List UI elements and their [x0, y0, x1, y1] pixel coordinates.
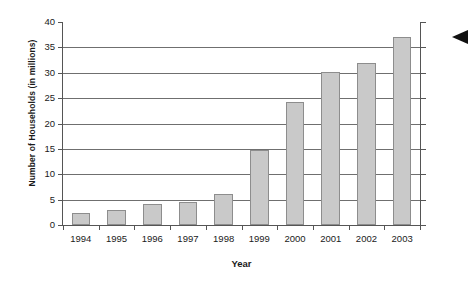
- y-tick-mark-right: [420, 47, 426, 48]
- y-tick-mark-right: [420, 149, 426, 150]
- y-tick-mark-right: [420, 200, 426, 201]
- bar: [214, 194, 233, 225]
- y-axis-tick-label: 35: [44, 43, 55, 53]
- y-axis-tick-label: 5: [50, 195, 55, 205]
- x-axis-tick-label: 1999: [249, 233, 270, 244]
- x-axis-tick-label: 2000: [284, 233, 305, 244]
- bar: [72, 213, 91, 225]
- y-axis-tick-label: 25: [44, 93, 55, 103]
- x-tick-mark: [242, 225, 243, 230]
- x-tick-mark: [63, 225, 64, 230]
- x-tick-mark: [277, 225, 278, 230]
- bar-group: 2003: [384, 22, 420, 225]
- bar-group: 1995: [99, 22, 135, 225]
- bar-group: 2001: [313, 22, 349, 225]
- x-tick-mark: [313, 225, 314, 230]
- x-axis-tick-label: 1995: [106, 233, 127, 244]
- bar-group: 1999: [242, 22, 278, 225]
- bar: [393, 37, 412, 225]
- x-axis-tick-label: 1996: [142, 233, 163, 244]
- x-tick-mark: [99, 225, 100, 230]
- bar: [107, 210, 126, 225]
- bar: [357, 63, 376, 225]
- x-axis-title: Year: [63, 258, 420, 269]
- bar-group: 1996: [134, 22, 170, 225]
- y-axis-tick-label: 20: [44, 119, 55, 129]
- y-tick-mark-right: [420, 124, 426, 125]
- y-axis-tick-label: 0: [50, 220, 55, 230]
- x-axis-tick-label: 2001: [320, 233, 341, 244]
- bar-group: 1994: [63, 22, 99, 225]
- x-tick-mark: [420, 225, 421, 230]
- x-axis-tick-label: 1998: [213, 233, 234, 244]
- bar: [250, 150, 269, 225]
- x-tick-mark: [206, 225, 207, 230]
- y-axis-title: Number of Households (in millions): [27, 13, 37, 213]
- bar: [321, 72, 340, 225]
- y-tick-mark-right: [420, 22, 426, 23]
- x-axis-tick-label: 1994: [70, 233, 91, 244]
- bar: [143, 204, 162, 225]
- y-axis-tick-label: 40: [44, 17, 55, 27]
- bar: [179, 202, 198, 225]
- bar-chart: Number of Households (in millions) 05101…: [0, 0, 475, 288]
- x-tick-mark: [170, 225, 171, 230]
- bar: [286, 102, 305, 225]
- x-tick-mark: [384, 225, 385, 230]
- x-tick-mark: [134, 225, 135, 230]
- plot-inner: 0510152025303540 19941995199619971998199…: [63, 22, 420, 225]
- bar-group: 2002: [349, 22, 385, 225]
- x-tick-mark: [349, 225, 350, 230]
- y-tick-mark-right: [420, 174, 426, 175]
- bar-group: 2000: [277, 22, 313, 225]
- y-tick-mark-right: [420, 73, 426, 74]
- bar-group: 1997: [170, 22, 206, 225]
- left-pointing-arrow-icon: [452, 30, 468, 44]
- y-axis-tick-label: 10: [44, 170, 55, 180]
- plot-area: 0510152025303540 19941995199619971998199…: [63, 22, 420, 225]
- bar-series: 1994199519961997199819992000200120022003: [63, 22, 420, 225]
- y-axis-tick-label: 15: [44, 144, 55, 154]
- y-tick-mark-right: [420, 98, 426, 99]
- x-axis-tick-label: 2002: [356, 233, 377, 244]
- x-axis-tick-label: 2003: [392, 233, 413, 244]
- x-axis-tick-label: 1997: [177, 233, 198, 244]
- bar-group: 1998: [206, 22, 242, 225]
- y-axis-tick-label: 30: [44, 68, 55, 78]
